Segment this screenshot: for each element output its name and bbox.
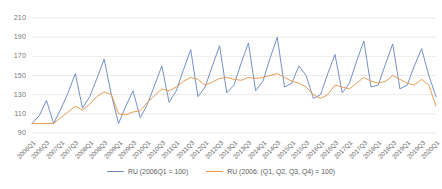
legend-label: RU (2006: (Q1, Q2, Q3, Q4) = 100) — [227, 168, 335, 175]
legend-item-0[interactable]: RU (2006Q1 = 100) — [107, 168, 188, 175]
y-axis-tick: 110 — [0, 109, 26, 118]
gridlines — [32, 18, 436, 133]
series-line-0 — [32, 37, 436, 123]
legend-item-1[interactable]: RU (2006: (Q1, Q2, Q3, Q4) = 100) — [206, 168, 335, 175]
legend-swatch-icon — [206, 171, 223, 173]
y-axis-tick: 190 — [0, 32, 26, 41]
y-axis-tick: 90 — [0, 128, 26, 137]
y-axis-tick: 170 — [0, 51, 26, 60]
series-lines — [32, 37, 436, 123]
chart-legend: RU (2006Q1 = 100)RU (2006: (Q1, Q2, Q3, … — [0, 168, 442, 175]
y-axis-tick: 130 — [0, 90, 26, 99]
legend-swatch-icon — [107, 171, 124, 173]
line-chart: 90110130150170190210 2006Q12006Q32007Q12… — [0, 0, 442, 189]
y-axis-tick: 150 — [0, 71, 26, 80]
series-line-1 — [32, 74, 436, 124]
legend-label: RU (2006Q1 = 100) — [128, 168, 188, 175]
y-axis-tick: 210 — [0, 13, 26, 22]
